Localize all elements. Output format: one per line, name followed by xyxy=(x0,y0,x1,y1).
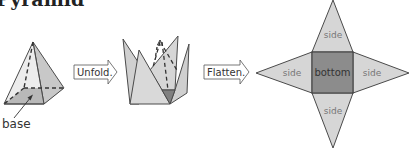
unfold-arrow: Unfold. xyxy=(74,60,117,84)
pyramid-unfolding-diagram: base Unfold. Flatten. bottom side side s… xyxy=(0,0,412,149)
pyramid-unfolding xyxy=(123,36,189,104)
pyramid-net: bottom side side side side xyxy=(256,0,409,148)
net-bottom-label: bottom xyxy=(314,67,350,78)
net-side-top xyxy=(312,0,353,52)
unfold-arrow-label: Unfold. xyxy=(77,67,113,78)
net-side-bottom xyxy=(312,93,353,148)
net-side-bottom-label: side xyxy=(324,106,343,116)
base-label: base xyxy=(2,117,31,131)
flatten-arrow: Flatten. xyxy=(204,60,249,84)
net-side-top-label: side xyxy=(324,30,343,40)
pyramid-solid: base xyxy=(2,42,64,131)
net-side-left-label: side xyxy=(283,68,302,78)
flatten-arrow-label: Flatten. xyxy=(207,67,245,78)
net-side-right-label: side xyxy=(363,68,382,78)
